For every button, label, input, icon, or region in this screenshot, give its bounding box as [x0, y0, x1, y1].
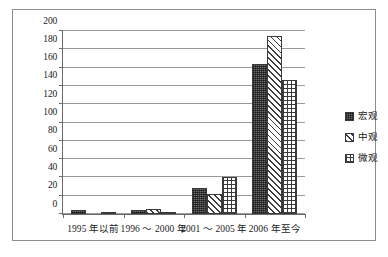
- y-tick-label: 120: [43, 90, 57, 100]
- bar-group: 1996 ～ 2000 年: [124, 31, 185, 214]
- x-tick-mark: [124, 214, 125, 218]
- bar-micro: [282, 80, 297, 215]
- bar-macro: [252, 64, 267, 214]
- bar-meso: [146, 209, 161, 214]
- y-tick-label: 80: [48, 127, 57, 137]
- legend-swatch-macro-icon: [345, 112, 354, 121]
- legend-item-micro: 微观: [345, 148, 388, 169]
- bar-macro: [71, 210, 86, 214]
- chart-legend: 宏观 中观 微观: [345, 106, 388, 169]
- bar-meso: [267, 36, 282, 214]
- legend-label-micro: 微观: [358, 154, 378, 164]
- legend-item-meso: 中观: [345, 127, 388, 148]
- legend-swatch-meso-icon: [345, 133, 354, 142]
- bar-macro: [192, 188, 207, 214]
- chart-figure: 0 20 40 60 80 100 120 140 160 180 200 19…: [0, 0, 388, 257]
- y-tick-label: 140: [43, 72, 57, 82]
- bar-micro: [101, 212, 116, 214]
- y-tick-label: 20: [48, 181, 57, 191]
- bar-micro: [222, 177, 237, 214]
- y-tick-label: 0: [52, 200, 57, 210]
- y-tick-label: 200: [43, 17, 57, 27]
- bar-micro: [161, 212, 176, 214]
- legend-label-meso: 中观: [358, 133, 378, 143]
- x-tick-label: 2001 ～ 2005 年: [181, 225, 247, 235]
- y-tick-label: 180: [43, 35, 57, 45]
- x-tick-label: 1995 年以前: [67, 225, 119, 235]
- x-tick-mark: [245, 214, 246, 218]
- y-tick-label: 40: [48, 163, 57, 173]
- legend-label-macro: 宏观: [358, 112, 378, 122]
- x-tick-mark: [63, 214, 64, 218]
- bar-group: 2001 ～ 2005 年: [184, 31, 245, 214]
- x-tick-label: 1996 ～ 2000 年: [121, 225, 187, 235]
- x-tick-mark: [184, 214, 185, 218]
- plot-area: 0 20 40 60 80 100 120 140 160 180 200 19…: [62, 31, 305, 215]
- bar-group: 1995 年以前: [63, 31, 124, 214]
- bar-group: 2006 年至今: [245, 31, 306, 214]
- y-tick-label: 100: [43, 108, 57, 118]
- bar-meso: [207, 194, 222, 214]
- y-tick-label: 60: [48, 145, 57, 155]
- y-tick-label: 160: [43, 53, 57, 63]
- x-tick-label: 2006 年至今: [249, 225, 301, 235]
- bar-macro: [131, 210, 146, 214]
- legend-item-macro: 宏观: [345, 106, 388, 127]
- chart-outer-frame: 0 20 40 60 80 100 120 140 160 180 200 19…: [12, 9, 376, 241]
- x-tick-mark: [305, 214, 306, 218]
- legend-swatch-micro-icon: [345, 154, 354, 163]
